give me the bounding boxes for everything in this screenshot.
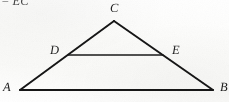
vertex-label-b: B bbox=[220, 81, 229, 94]
top-annotation-fragment: = EC bbox=[1, 0, 29, 8]
point-label-e: E bbox=[172, 44, 180, 57]
triangle-drawing bbox=[0, 0, 229, 102]
point-label-d: D bbox=[50, 44, 59, 57]
vertex-label-a: A bbox=[3, 81, 11, 94]
geometry-figure: = EC C D E A B bbox=[0, 0, 229, 102]
vertex-label-c: C bbox=[110, 2, 118, 15]
